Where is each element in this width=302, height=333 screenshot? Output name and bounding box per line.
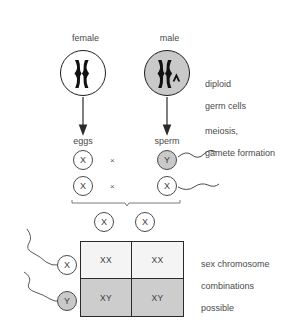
diploid-line-2: germ cells [205, 101, 246, 111]
sperm-label: sperm [142, 136, 192, 147]
male-label-text: male [160, 33, 180, 43]
meiosis-line-2: gamete formation [205, 148, 275, 158]
sperm-gamete-2-label: X [164, 181, 170, 191]
sperm-tail-2 [178, 184, 219, 190]
punnett-cell-0-1-label: XX [152, 255, 164, 265]
male-chromosomes-icon [144, 50, 190, 96]
egg-gamete-1: X [73, 150, 93, 170]
female-chromosomes-icon [60, 50, 106, 96]
punnett-cell-0-1: XX [132, 242, 183, 279]
egg-gamete-2: X [73, 176, 93, 196]
punnett-row-header-1: X [57, 255, 77, 275]
punnett-cell-1-1: XY [132, 279, 183, 316]
punnett-row-header-1-label: X [64, 260, 70, 270]
female-germ-cell [60, 50, 106, 96]
male-germ-cell [144, 50, 190, 96]
combinations-line-3: possible [201, 303, 234, 313]
punnett-cell-1-0: XY [81, 279, 132, 316]
eggs-label: eggs [58, 136, 108, 147]
punnett-square: XX XX XY XY [80, 241, 184, 317]
egg-gamete-1-label: X [80, 155, 86, 165]
sperm-gamete-2: X [157, 176, 177, 196]
sperm-gamete-1-label: Y [164, 155, 170, 165]
combinations-annotation: sex chromosome combinations possible [196, 248, 270, 314]
female-label-text: female [72, 33, 99, 43]
punnett-col-header-1: X [94, 212, 114, 232]
combinations-line-2: combinations [201, 281, 254, 291]
punnett-cell-1-1-label: XY [152, 293, 164, 303]
punnett-row-header-2: Y [57, 291, 77, 311]
punnett-col-header-2-label: X [142, 217, 148, 227]
punnett-col-header-1-label: X [101, 217, 107, 227]
punnett-cell-1-0-label: XY [100, 293, 112, 303]
punnett-row-header-2-label: Y [64, 296, 70, 306]
punnett-col-header-2: X [135, 212, 155, 232]
punnett-sperm-tail-x [27, 229, 58, 265]
punnett-cell-0-0-label: XX [100, 255, 112, 265]
diploid-line-1: diploid [205, 79, 231, 89]
diploid-germ-cells-annotation: diploid germ cells [200, 68, 246, 112]
meiosis-annotation: meiosis, gamete formation [200, 115, 275, 159]
cross-symbol-1: × [110, 156, 115, 165]
meiosis-line-1: meiosis, [205, 126, 238, 136]
punnett-sperm-tail-y [24, 272, 60, 301]
punnett-cell-0-0: XX [81, 242, 132, 279]
pairing-bracket [72, 200, 180, 206]
sperm-gamete-1: Y [157, 150, 177, 170]
cross-symbol-2: × [110, 182, 115, 191]
combinations-line-1: sex chromosome [201, 259, 270, 269]
egg-gamete-2-label: X [80, 181, 86, 191]
